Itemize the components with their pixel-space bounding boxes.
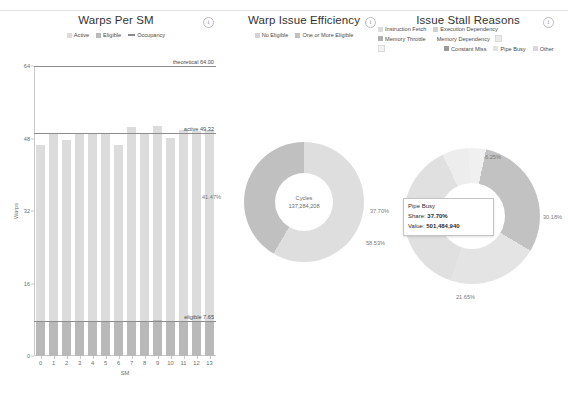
x-tick-label: 0 (34, 360, 47, 366)
bar-column[interactable]: 3 (73, 66, 86, 356)
donut-center: Cycles 137,284,208 (275, 173, 333, 231)
tooltip-share-row: Share: 37.70% (408, 212, 488, 222)
legend-item-memory-throttle[interactable]: Memory Throttle (378, 36, 426, 42)
legend-item-blank[interactable] (378, 45, 387, 52)
legend-item-execution-dependency[interactable]: Execution Dependency (433, 26, 498, 32)
x-tick-label: 3 (73, 360, 86, 366)
legend-item-active[interactable]: Active (67, 32, 89, 38)
slice-percent-label: 6.25% (485, 154, 501, 160)
x-tick-label: 13 (203, 360, 216, 366)
bar-segment-eligible[interactable] (166, 322, 175, 356)
bar-column[interactable]: 5 (99, 66, 112, 356)
slice-percent-label: 21.65% (456, 294, 475, 300)
x-tick-mark (106, 356, 107, 359)
bar-column[interactable]: 0 (34, 66, 47, 356)
x-tick-mark (145, 356, 146, 359)
bar-column[interactable]: 6 (112, 66, 125, 356)
bar-segment-eligible[interactable] (62, 322, 71, 356)
legend-item-memory-dependency[interactable]: Memory Dependency (437, 35, 502, 42)
x-tick-mark (67, 356, 68, 359)
panel-issue-stall-reasons: Issue Stall Reasons i Instruction Fetch … (368, 0, 568, 406)
legend-item-no-eligible[interactable]: No Eligible (255, 32, 289, 38)
tooltip-share-value: 37.70% (427, 213, 447, 219)
y-axis-title: Warps (13, 203, 19, 219)
y-tick-label: 0 (27, 353, 30, 359)
legend-issue: No Eligible One or More Eligible (216, 32, 392, 38)
legend-label: Memory Dependency (437, 36, 490, 42)
bar-column[interactable]: 11 (177, 66, 190, 356)
bar-column[interactable]: 1 (47, 66, 60, 356)
info-icon[interactable]: i (203, 17, 214, 28)
legend-item-occupancy[interactable]: Occupancy (128, 32, 165, 38)
legend-label: Constant Miss (451, 46, 486, 52)
legend-item-one-or-more-eligible[interactable]: One or More Eligible (295, 32, 353, 38)
page-title-warps-per-sm: Warps Per SM (0, 14, 232, 26)
bar-segment-eligible[interactable] (88, 322, 97, 356)
bar-segment-eligible[interactable] (75, 321, 84, 356)
legend-line-icon (128, 34, 135, 36)
bar-column[interactable]: 2 (60, 66, 73, 356)
legend-swatch-icon (433, 27, 438, 32)
legend-label: Instruction Fetch (385, 26, 426, 32)
bar-column[interactable]: 10 (164, 66, 177, 356)
x-tick-label: 10 (164, 360, 177, 366)
x-tick-label: 5 (99, 360, 112, 366)
x-axis-title: SM (34, 370, 216, 376)
bar-column[interactable]: 12 (190, 66, 203, 356)
bar-segment-eligible[interactable] (36, 321, 45, 356)
bar-segment-eligible[interactable] (205, 321, 214, 356)
x-tick-mark (184, 356, 185, 359)
panel-header-stall: Issue Stall Reasons i Instruction Fetch … (368, 0, 568, 46)
bar-segment-eligible[interactable] (153, 320, 162, 356)
legend-item-other[interactable]: Other (533, 46, 554, 52)
x-tick-label: 4 (86, 360, 99, 366)
x-tick-label: 9 (151, 360, 164, 366)
legend-swatch-icon (96, 33, 101, 38)
x-tick-mark (210, 356, 211, 359)
donut-center-value: 137,284,208 (288, 202, 319, 210)
panel-warps-per-sm: Warps Per SM i Active Eligible Occupancy… (0, 0, 232, 406)
slice-percent-label: 30.18% (543, 214, 562, 220)
legend-label: Active (74, 32, 89, 38)
bar-chart-plot-area: Warps SM 016324864 012345678910111213 th… (34, 66, 216, 356)
y-tick-label: 48 (24, 136, 30, 142)
bar-column[interactable]: 9 (151, 66, 164, 356)
panel-warp-issue-efficiency: Warp Issue Efficiency i No Eligible One … (216, 0, 392, 406)
legend-item-eligible[interactable]: Eligible (96, 32, 121, 38)
donut-chart-issue-stall-reasons: Cycles 1,330,220,506 6.25% 30.18% 21.65%… (382, 148, 562, 318)
y-tick-label: 16 (24, 281, 30, 287)
x-tick-label: 7 (125, 360, 138, 366)
bar-segment-eligible[interactable] (127, 321, 136, 356)
bar-column[interactable]: 7 (125, 66, 138, 356)
slice-percent-label: 41.47% (202, 194, 221, 200)
x-tick-mark (41, 356, 42, 359)
legend-item-constant-miss[interactable]: Constant Miss (444, 46, 486, 52)
legend-item-pipe-busy[interactable]: Pipe Busy (493, 46, 525, 52)
x-tick-mark (80, 356, 81, 359)
legend-item-instruction-fetch[interactable]: Instruction Fetch (378, 26, 426, 32)
bar-segment-eligible[interactable] (179, 321, 188, 356)
legend-swatch-icon (255, 33, 260, 38)
page-title-issue-stall-reasons: Issue Stall Reasons (368, 14, 568, 26)
reference-line-label: theoretical 64.00 (173, 59, 214, 65)
legend-swatch-icon (444, 46, 449, 51)
legend-swatch-icon (493, 46, 498, 51)
bar-column[interactable]: 4 (86, 66, 99, 356)
legend-label: Execution Dependency (440, 26, 498, 32)
panel-header-issue: Warp Issue Efficiency i No Eligible One … (216, 0, 392, 46)
bar-segment-eligible[interactable] (114, 322, 123, 356)
slice-percent-label: 37.70% (370, 208, 389, 214)
bar-column[interactable]: 13 (203, 66, 216, 356)
legend-swatch-icon (67, 33, 72, 38)
x-tick-label: 12 (190, 360, 203, 366)
bar-segment-eligible[interactable] (101, 322, 110, 356)
bar-series-group: 012345678910111213 (34, 66, 216, 356)
bar-segment-eligible[interactable] (49, 322, 58, 356)
legend-swatch-icon (378, 27, 383, 32)
bar-column[interactable]: 8 (138, 66, 151, 356)
legend-swatch-icon (295, 33, 300, 38)
legend-swatch-icon (533, 46, 538, 51)
bar-segment-eligible[interactable] (192, 321, 201, 356)
bar-segment-eligible[interactable] (140, 322, 149, 356)
legend-swatch-icon (495, 35, 502, 42)
